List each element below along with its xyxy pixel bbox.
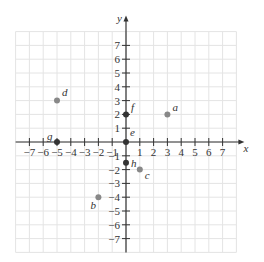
x-tick-label: −3 xyxy=(79,146,91,158)
y-axis-label: y xyxy=(116,12,122,24)
point-label-e: e xyxy=(130,126,135,138)
y-tick-label: 4 xyxy=(115,81,121,93)
point-label-f: f xyxy=(131,101,136,113)
point-h xyxy=(123,160,129,166)
point-label-a: a xyxy=(172,101,178,113)
x-tick-label: 3 xyxy=(165,146,171,158)
point-label-h: h xyxy=(131,157,137,169)
point-g xyxy=(54,139,60,145)
x-tick-label: −4 xyxy=(65,146,77,158)
x-tick-label: 4 xyxy=(178,146,184,158)
point-label-g: g xyxy=(47,130,53,142)
x-tick-label: 7 xyxy=(220,146,226,158)
x-tick-label: −5 xyxy=(51,146,63,158)
y-tick-label: 1 xyxy=(115,122,121,134)
point-e xyxy=(123,139,129,145)
x-tick-label: −7 xyxy=(24,146,36,158)
coordinate-plane: xy−7−6−5−4−3−2−11234567−7−6−5−4−3−2−1123… xyxy=(0,0,264,262)
x-tick-label: 5 xyxy=(192,146,198,158)
y-tick-label: −5 xyxy=(108,205,120,217)
x-axis-label: x xyxy=(242,142,248,154)
x-tick-label: 6 xyxy=(206,146,212,158)
y-tick-label: −4 xyxy=(108,191,120,203)
y-axis-arrow-icon xyxy=(124,16,129,22)
x-tick-label: 1 xyxy=(137,146,143,158)
y-tick-label: 6 xyxy=(115,53,121,65)
point-c xyxy=(137,167,143,173)
y-tick-label: −2 xyxy=(108,164,120,176)
x-tick-label: 2 xyxy=(151,146,157,158)
y-tick-label: −3 xyxy=(108,177,120,189)
point-a xyxy=(164,111,170,117)
point-label-d: d xyxy=(62,86,68,98)
y-tick-label: 7 xyxy=(115,39,121,51)
y-tick-label: −7 xyxy=(108,233,120,245)
y-tick-label: −6 xyxy=(108,219,120,231)
point-label-b: b xyxy=(90,199,96,211)
x-tick-label: −2 xyxy=(93,146,105,158)
point-f xyxy=(123,111,129,117)
y-tick-label: −1 xyxy=(108,150,120,162)
point-label-c: c xyxy=(145,169,150,181)
point-b xyxy=(95,194,101,200)
y-tick-label: 5 xyxy=(115,67,121,79)
y-tick-label: 2 xyxy=(115,108,121,120)
point-d xyxy=(54,98,60,104)
x-tick-label: −6 xyxy=(37,146,49,158)
y-tick-label: 3 xyxy=(115,95,121,107)
